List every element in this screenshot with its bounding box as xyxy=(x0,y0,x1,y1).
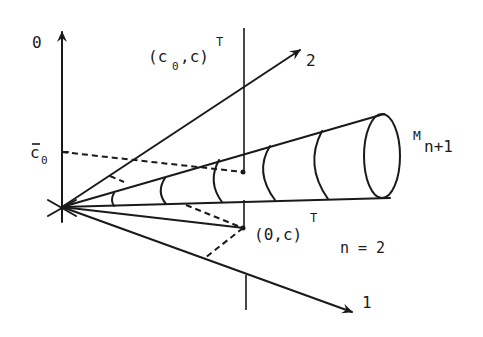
svg-text:n+1: n+1 xyxy=(424,137,453,156)
cone-upper-edge xyxy=(62,114,384,207)
cone-section-2 xyxy=(161,178,166,204)
lower-point-label: (0,c) T xyxy=(254,211,317,244)
svg-text:0: 0 xyxy=(41,154,48,167)
n-label: n = 2 xyxy=(340,239,385,257)
axis-2-label: 2 xyxy=(306,51,316,70)
upper-point-label: (c 0 ,c) T xyxy=(148,35,223,73)
svg-text:,c): ,c) xyxy=(180,47,209,66)
cone-diagram: 0 2 1 (c 0 ,c) T (0,c) T c 0 M n+1 n = 2 xyxy=(0,0,483,337)
cone-section-5 xyxy=(314,131,328,199)
c0bar-label: c 0 xyxy=(30,143,48,167)
cone-section-3 xyxy=(214,160,222,202)
axis-1-label: 1 xyxy=(362,293,372,312)
svg-text:0: 0 xyxy=(172,60,179,73)
cone-section-1 xyxy=(112,193,114,206)
svg-text:T: T xyxy=(216,35,223,49)
cone-label: M n+1 xyxy=(413,128,453,156)
cone-section-4 xyxy=(263,146,275,200)
svg-text:M: M xyxy=(413,128,421,143)
axis-2-arrow xyxy=(62,50,300,207)
svg-text:(c: (c xyxy=(148,47,167,66)
axis-0-label: 0 xyxy=(32,33,42,52)
cone-end-ellipse xyxy=(364,114,400,198)
svg-text:(0,c): (0,c) xyxy=(254,225,302,244)
svg-text:c: c xyxy=(30,143,40,162)
dashed-lower-to-axis1 xyxy=(205,228,243,258)
svg-text:T: T xyxy=(310,211,317,225)
upper-point xyxy=(241,170,246,175)
dashed-projection-axis2 xyxy=(110,176,124,182)
lower-point xyxy=(241,226,246,231)
